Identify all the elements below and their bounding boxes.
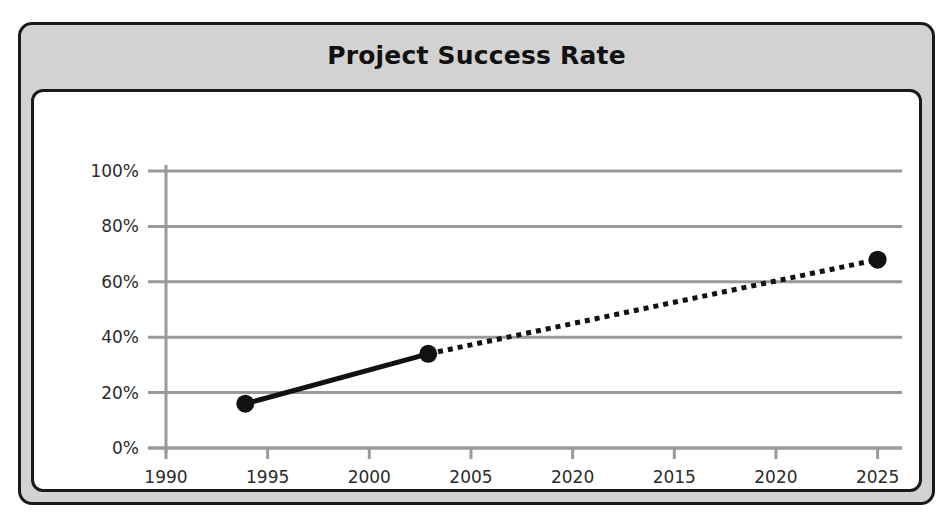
y-tick-label-20%: 20% bbox=[101, 383, 139, 403]
chart-screenshot: Project Success Rate 0%20%40%60%80%100% … bbox=[0, 0, 952, 518]
x-tick-label-2: 2000 bbox=[348, 467, 391, 487]
x-tick-label-4: 2020 bbox=[551, 467, 594, 487]
series-line-1 bbox=[428, 260, 877, 354]
data-point-0 bbox=[236, 395, 254, 413]
y-tick-label-0%: 0% bbox=[112, 438, 139, 458]
y-tick-labels: 0%20%40%60%80%100% bbox=[90, 161, 139, 458]
y-tick-label-40%: 40% bbox=[101, 327, 139, 347]
x-tick-label-6: 2020 bbox=[754, 467, 797, 487]
y-tick-label-80%: 80% bbox=[101, 216, 139, 236]
x-tick-label-7: 2025 bbox=[856, 467, 899, 487]
x-tick-label-3: 2005 bbox=[449, 467, 492, 487]
x-tick-label-5: 2015 bbox=[653, 467, 696, 487]
x-tick-label-1: 1995 bbox=[246, 467, 289, 487]
data-point-markers bbox=[236, 251, 886, 413]
chart-panel: Project Success Rate 0%20%40%60%80%100% … bbox=[18, 22, 935, 505]
y-tick-label-100%: 100% bbox=[90, 161, 139, 181]
chart-title: Project Success Rate bbox=[21, 25, 932, 87]
y-tick-label-60%: 60% bbox=[101, 272, 139, 292]
x-tick-labels: 19901995200020052020201520202025 bbox=[144, 467, 899, 487]
x-tick-label-0: 1990 bbox=[144, 467, 187, 487]
plot-area-panel: 0%20%40%60%80%100% 199019952000200520202… bbox=[31, 89, 922, 492]
gridlines bbox=[148, 171, 902, 448]
line-chart-svg: 0%20%40%60%80%100% 199019952000200520202… bbox=[34, 92, 919, 489]
data-point-1 bbox=[419, 345, 437, 363]
x-tick-marks bbox=[166, 448, 878, 459]
data-point-2 bbox=[869, 251, 887, 269]
series-line-0 bbox=[245, 354, 428, 404]
